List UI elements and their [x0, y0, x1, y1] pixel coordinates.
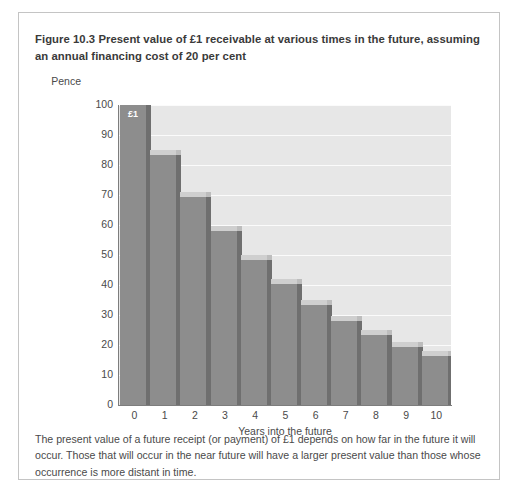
bar-front-face: [150, 155, 176, 405]
y-axis-tick-label: 10: [83, 368, 113, 380]
bar: [180, 197, 206, 405]
y-axis-tick-label: 80: [83, 158, 113, 170]
y-axis-tick-label: 30: [83, 308, 113, 320]
y-axis-tick-label: 0: [83, 398, 113, 410]
bar-top-corner: [297, 279, 302, 284]
bar-top-corner: [237, 226, 242, 231]
x-axis-tick-label: 7: [330, 409, 361, 421]
x-axis-tick-label: 5: [270, 409, 301, 421]
x-axis-line: [118, 405, 452, 406]
bar-front-face: [241, 260, 267, 405]
bar-front-face: [211, 231, 237, 405]
bar-front-face: [392, 347, 418, 405]
bar-top-face: [271, 279, 297, 284]
figure-title: Figure 10.3 Present value of £1 receivab…: [35, 31, 485, 65]
y-axis-line: [118, 105, 119, 406]
y-axis-tick-label: 100: [83, 98, 113, 110]
bar-front-face: [271, 284, 297, 405]
y-axis-tick-label: 50: [83, 248, 113, 260]
bar: £1: [120, 105, 146, 405]
bar: [271, 284, 297, 405]
bar-side-face: [448, 356, 451, 405]
x-axis-tick-label: 0: [119, 409, 150, 421]
bar-top-face: [211, 226, 237, 231]
x-axis-tick-labels: 012345678910: [119, 409, 451, 425]
x-axis-tick-label: 3: [210, 409, 241, 421]
bar-top-face: [301, 300, 327, 305]
bar-front-face: [331, 321, 357, 405]
y-axis-tick-labels: 1009080706050403020100: [79, 105, 113, 405]
bar: [211, 231, 237, 405]
y-axis-tick-label: 70: [83, 188, 113, 200]
y-axis-tick-label: 60: [83, 218, 113, 230]
bar: [422, 356, 448, 405]
y-axis-tick-label: 40: [83, 278, 113, 290]
bar-front-face: [361, 335, 387, 405]
bar-top-face: [392, 342, 418, 347]
bar-top-face: [331, 316, 357, 321]
bar-top-corner: [448, 351, 451, 356]
bar-front-face: [120, 105, 146, 405]
bar-top-corner: [418, 342, 423, 347]
bar-top-corner: [327, 300, 332, 305]
x-axis-tick-label: 10: [421, 409, 452, 421]
figure-container: Figure 10.3 Present value of £1 receivab…: [18, 12, 500, 480]
bar: [392, 347, 418, 405]
bar-top-corner: [387, 330, 392, 335]
bar: [301, 305, 327, 406]
bar-top-corner: [206, 192, 211, 197]
y-axis-title: Pence: [33, 75, 81, 87]
y-axis-tick-label: 90: [83, 128, 113, 140]
bar-top-face: [361, 330, 387, 335]
x-axis-tick-label: 6: [300, 409, 331, 421]
bar-top-face: [422, 351, 448, 356]
bar-top-face: [150, 150, 176, 155]
x-axis-tick-label: 8: [360, 409, 391, 421]
bar-front-face: [422, 356, 448, 405]
x-axis-tick-label: 1: [149, 409, 180, 421]
bar-top-corner: [176, 150, 181, 155]
bar-top-face: [180, 192, 206, 197]
bar-top-face: [241, 255, 267, 260]
bar-data-label: £1: [120, 109, 146, 119]
x-axis-tick-label: 4: [240, 409, 271, 421]
bar: [361, 335, 387, 405]
bar: [331, 321, 357, 405]
x-axis-tick-label: 2: [179, 409, 210, 421]
x-axis-tick-label: 9: [391, 409, 422, 421]
y-axis-tick-label: 20: [83, 338, 113, 350]
bar-series: £1: [119, 105, 451, 405]
bar-top-corner: [267, 255, 272, 260]
bar: [241, 260, 267, 405]
bar-top-corner: [357, 316, 362, 321]
bar: [150, 155, 176, 405]
chart-region: Pence 1009080706050403020100 £1 01234567…: [19, 75, 499, 420]
bar-front-face: [180, 197, 206, 405]
figure-caption: The present value of a future receipt (o…: [35, 431, 487, 480]
bar-front-face: [301, 305, 327, 406]
plot-area: £1: [119, 105, 451, 405]
